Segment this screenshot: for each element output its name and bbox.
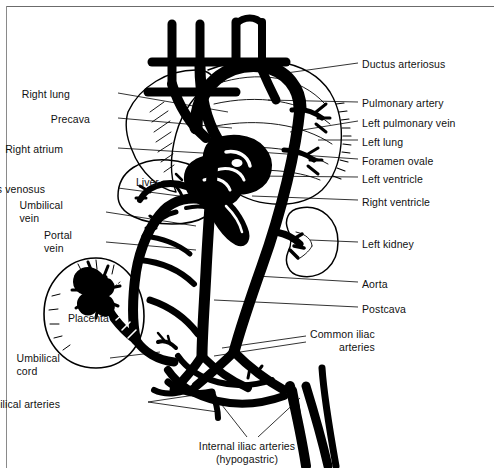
postcava-label: Postcava	[362, 303, 406, 316]
common-iliac-arteries-leader-2	[214, 342, 306, 356]
internal-iliac-arteries-label: Internal iliac arteries (hypogastric)	[157, 440, 337, 465]
right-atrium-label: Right atrium	[5, 143, 63, 156]
left-pulmonary-vein-label: Left pulmonary vein	[362, 117, 456, 130]
left-kidney-leader	[310, 240, 358, 242]
postcava-leader	[214, 300, 358, 307]
right-ventricle-leader	[252, 196, 358, 200]
left-ventricle-leader	[256, 176, 358, 177]
vascular-tree	[72, 18, 336, 466]
umbilical-arteries-label: Umbilical arteries	[0, 398, 60, 411]
placenta-label: Placenta	[68, 312, 109, 324]
ductus-arteriosus-label: Ductus arteriosus	[362, 58, 445, 71]
left-kidney-label: Left kidney	[362, 238, 414, 251]
umbilical-vein-label: Umbilical vein	[20, 199, 64, 224]
fetal-circulation-figure: Right lungPrecavaRight atriumDuctus veno…	[0, 0, 494, 468]
umbilical-cord-label: Umbilical cord	[17, 352, 61, 377]
left-lung-label: Left lung	[362, 136, 403, 149]
foramen-ovale-label: Foramen ovale	[362, 155, 433, 168]
right-ventricle-label: Right ventricle	[362, 196, 430, 209]
umbilical-arteries-leader-2	[148, 402, 218, 412]
internal-iliac-left	[212, 392, 218, 418]
foramen-ovale-opening	[232, 159, 243, 167]
aorta-label: Aorta	[362, 278, 388, 291]
common-iliac-arteries-label: Common iliac arteries	[310, 328, 375, 353]
placental-villi	[74, 268, 114, 316]
left-ventricle-label: Left ventricle	[362, 173, 423, 186]
pulmonary-artery-label: Pulmonary artery	[362, 97, 444, 110]
precava-label: Precava	[51, 113, 90, 126]
portal-vein-label: Portal vein	[44, 229, 72, 254]
liver-label: Liver	[136, 176, 159, 188]
ductus-venosus-label: Ductus venosus	[0, 183, 45, 196]
right-lung-label: Right lung	[22, 88, 70, 101]
